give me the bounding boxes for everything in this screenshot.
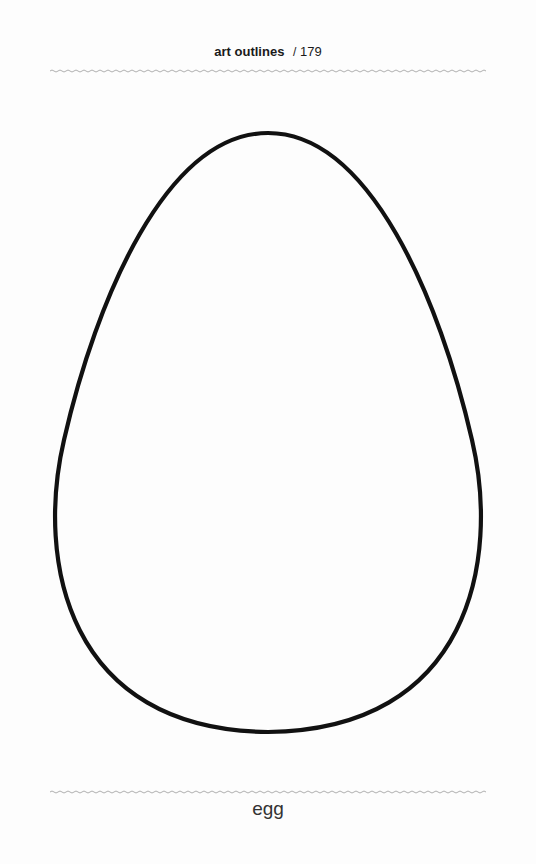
egg-outline bbox=[0, 0, 536, 864]
figure-caption: egg bbox=[0, 798, 536, 820]
bottom-wavy-rule bbox=[50, 790, 486, 794]
